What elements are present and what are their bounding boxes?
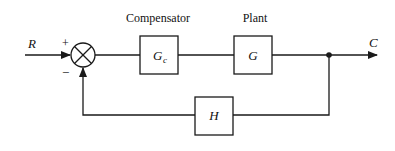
feedback-symbol: H <box>208 108 219 123</box>
compensator-subscript: c <box>163 55 167 65</box>
summing-junction-icon <box>71 43 95 67</box>
plus-sign: + <box>62 36 69 50</box>
plant-block: G <box>234 36 272 74</box>
input-label-r: R <box>27 36 36 51</box>
plant-caption: Plant <box>243 11 268 25</box>
block-diagram: R + − Compensator G c Plant G C H <box>0 0 395 151</box>
feedback-block: H <box>195 97 233 135</box>
compensator-caption: Compensator <box>126 11 190 25</box>
plant-symbol: G <box>248 48 258 63</box>
minus-sign: − <box>62 65 69 80</box>
compensator-block: G c <box>140 36 178 74</box>
feedback-arrow <box>83 68 195 115</box>
compensator-symbol: G <box>153 48 163 63</box>
output-label-c: C <box>369 35 378 50</box>
